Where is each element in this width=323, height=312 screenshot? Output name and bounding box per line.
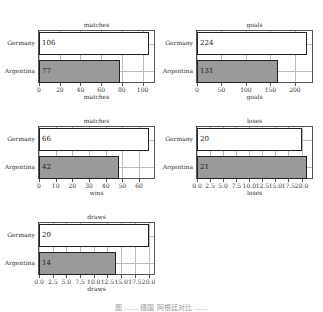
x-tick-label: 7.5	[75, 278, 85, 285]
bar-germany	[39, 128, 149, 151]
x-tick-label: 20.0	[295, 182, 308, 189]
bar-value-label: 224	[200, 39, 213, 47]
bar-germany	[39, 224, 149, 247]
y-category-label: Argentina	[157, 163, 193, 170]
x-tick-label: 17.5	[128, 278, 141, 285]
x-tick-label: 15.0	[114, 278, 127, 285]
y-category-label: Germany	[157, 135, 193, 142]
x-tick-label: 80	[118, 86, 126, 93]
bar-value-label: 77	[42, 67, 51, 75]
x-tick-label: 150	[265, 86, 276, 93]
x-tick-label: 0	[37, 182, 41, 189]
x-tick-label: 100	[240, 86, 251, 93]
plot-area: 224131	[196, 30, 313, 83]
bar-argentina	[197, 156, 307, 179]
y-category-label: Argentina	[0, 163, 35, 170]
x-tick-label: 5.0	[218, 182, 228, 189]
plot-area: 6642	[38, 126, 155, 179]
x-tick-label: 0.0	[192, 182, 202, 189]
x-axis-label: goals	[196, 93, 313, 100]
bar-germany	[197, 32, 307, 55]
x-tick-label: 5.0	[62, 278, 72, 285]
x-tick-label: 0	[37, 86, 41, 93]
x-tick-label: 40	[77, 86, 85, 93]
plot-area: 2014	[38, 222, 155, 275]
x-axis-label: wins	[38, 189, 155, 196]
bar-germany	[39, 32, 149, 55]
x-tick-label: 60	[97, 86, 105, 93]
y-category-label: Germany	[157, 39, 193, 46]
y-category-label: Argentina	[0, 259, 35, 266]
chart-title: matches	[38, 21, 155, 28]
x-tick-label: 12.5	[101, 278, 114, 285]
bar-argentina	[39, 156, 119, 179]
x-tick-label: 17.5	[282, 182, 295, 189]
x-tick-label: 0	[195, 86, 199, 93]
x-tick-label: 20	[69, 182, 77, 189]
x-tick-label: 50	[218, 86, 226, 93]
chart-title: loses	[196, 117, 313, 124]
x-tick-label: 10	[52, 182, 60, 189]
bar-germany	[197, 128, 302, 151]
bar-value-label: 20	[42, 231, 51, 239]
x-tick-label: 20	[56, 86, 64, 93]
x-tick-label: 2.5	[205, 182, 215, 189]
x-axis-label: matches	[38, 93, 155, 100]
x-tick-label: 2.5	[48, 278, 58, 285]
x-tick-label: 0.0	[34, 278, 44, 285]
bar-argentina	[39, 60, 120, 83]
bar-value-label: 131	[200, 67, 213, 75]
y-category-label: Germany	[0, 231, 35, 238]
x-tick-label: 100	[137, 86, 148, 93]
x-tick-label: 10.0	[243, 182, 256, 189]
bar-value-label: 14	[42, 259, 51, 267]
x-tick-label: 30	[85, 182, 93, 189]
chart-title: draws	[38, 213, 155, 220]
y-category-label: Argentina	[157, 67, 193, 74]
plot-area: 2021	[196, 126, 313, 179]
x-axis-label: loses	[196, 189, 313, 196]
plot-area: 10677	[38, 30, 155, 83]
x-tick-label: 200	[289, 86, 300, 93]
y-category-label: Germany	[0, 39, 35, 46]
bar-value-label: 21	[200, 163, 209, 171]
x-tick-label: 7.5	[231, 182, 241, 189]
chart-title: matches	[38, 117, 155, 124]
bar-value-label: 106	[42, 39, 55, 47]
bar-value-label: 66	[42, 135, 51, 143]
x-tick-label: 40	[102, 182, 110, 189]
bar-value-label: 20	[200, 135, 209, 143]
bar-value-label: 42	[42, 163, 51, 171]
gridline	[149, 223, 150, 274]
x-tick-label: 20.0	[142, 278, 155, 285]
x-tick-label: 12.5	[256, 182, 269, 189]
figure-caption: 图 …… 德国 阿根廷对比 ……	[0, 302, 323, 312]
chart-title: goals	[196, 21, 313, 28]
x-tick-label: 10.0	[87, 278, 100, 285]
x-axis-label: draws	[38, 285, 155, 292]
x-tick-label: 50	[119, 182, 127, 189]
x-tick-label: 60	[135, 182, 143, 189]
y-category-label: Germany	[0, 135, 35, 142]
y-category-label: Argentina	[0, 67, 35, 74]
x-tick-label: 15.0	[269, 182, 282, 189]
